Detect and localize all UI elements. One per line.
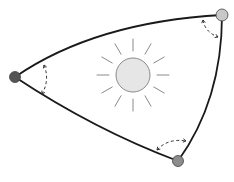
spherical-triangle-diagram bbox=[0, 0, 234, 182]
vertex-top-right bbox=[216, 9, 228, 21]
vertex-left bbox=[10, 72, 21, 83]
vertex-bottom bbox=[173, 156, 184, 167]
sun-icon bbox=[116, 58, 150, 92]
